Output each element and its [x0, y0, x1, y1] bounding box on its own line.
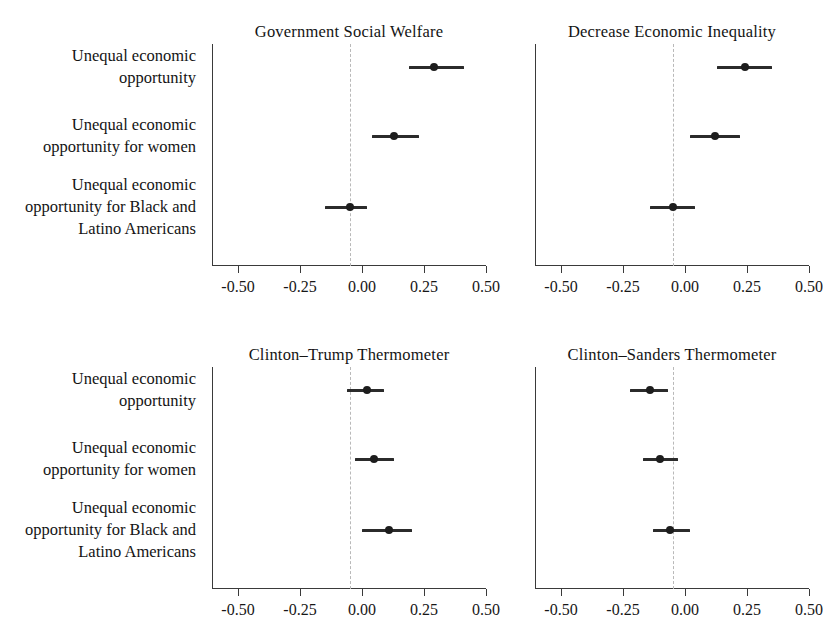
plot-area-3: -0.50-0.250.000.250.50 — [212, 367, 486, 589]
zero-reference-line — [673, 367, 674, 589]
x-tick-3 — [424, 266, 425, 273]
x-tick-label-3: 0.25 — [733, 278, 761, 296]
row-label-2: Unequal economic opportunity for women — [0, 437, 196, 481]
x-tick-label-0: -0.50 — [544, 601, 577, 619]
point-estimate-1 — [363, 386, 371, 394]
point-estimate-2 — [390, 132, 398, 140]
x-tick-2 — [685, 266, 686, 273]
x-tick-label-2: 0.00 — [348, 278, 376, 296]
x-tick-3 — [424, 589, 425, 596]
x-tick-3 — [747, 266, 748, 273]
panel-title-2: Decrease Economic Inequality — [535, 22, 809, 42]
plot-area-4: -0.50-0.250.000.250.50 — [535, 367, 809, 589]
row-label-3: Unequal economic opportunity for Black a… — [0, 498, 196, 563]
zero-reference-line — [350, 367, 351, 589]
x-tick-4 — [486, 266, 487, 273]
y-axis-line — [212, 367, 213, 589]
x-tick-label-3: 0.25 — [410, 278, 438, 296]
zero-reference-line — [350, 44, 351, 266]
x-tick-4 — [809, 266, 810, 273]
point-estimate-3 — [666, 526, 674, 534]
x-tick-0 — [238, 589, 239, 596]
x-tick-label-4: 0.50 — [472, 278, 500, 296]
x-tick-1 — [623, 266, 624, 273]
zero-reference-line — [673, 44, 674, 266]
row-label-3: Unequal economic opportunity for Black a… — [0, 175, 196, 240]
x-tick-0 — [561, 589, 562, 596]
x-tick-3 — [747, 589, 748, 596]
panel-title-4: Clinton–Sanders Thermometer — [535, 345, 809, 365]
x-tick-label-1: -0.25 — [283, 278, 316, 296]
x-tick-2 — [362, 266, 363, 273]
y-axis-line — [535, 367, 536, 589]
y-axis-line — [535, 44, 536, 266]
point-estimate-1 — [430, 63, 438, 71]
panel-1: Government Social Welfare-0.50-0.250.000… — [212, 22, 486, 266]
y-axis-line — [212, 44, 213, 266]
x-tick-1 — [300, 266, 301, 273]
x-tick-label-1: -0.25 — [606, 278, 639, 296]
point-estimate-2 — [370, 455, 378, 463]
point-estimate-2 — [656, 455, 664, 463]
panel-3: Clinton–Trump Thermometer-0.50-0.250.000… — [212, 345, 486, 589]
row-label-1: Unequal economic opportunity — [0, 369, 196, 413]
point-estimate-3 — [669, 203, 677, 211]
x-tick-0 — [561, 266, 562, 273]
x-tick-label-0: -0.50 — [221, 278, 254, 296]
x-tick-1 — [300, 589, 301, 596]
panel-title-1: Government Social Welfare — [212, 22, 486, 42]
plot-area-1: -0.50-0.250.000.250.50 — [212, 44, 486, 266]
x-tick-label-2: 0.00 — [348, 601, 376, 619]
x-tick-label-1: -0.25 — [606, 601, 639, 619]
x-tick-2 — [362, 589, 363, 596]
x-tick-label-4: 0.50 — [795, 601, 823, 619]
x-tick-label-0: -0.50 — [544, 278, 577, 296]
x-tick-2 — [685, 589, 686, 596]
x-tick-4 — [486, 589, 487, 596]
x-tick-label-4: 0.50 — [472, 601, 500, 619]
point-estimate-2 — [711, 132, 719, 140]
x-tick-1 — [623, 589, 624, 596]
panel-2: Decrease Economic Inequality-0.50-0.250.… — [535, 22, 809, 266]
row-label-group: Unequal economic opportunityUnequal econ… — [0, 367, 196, 589]
x-tick-label-3: 0.25 — [733, 601, 761, 619]
x-tick-label-2: 0.00 — [671, 601, 699, 619]
point-estimate-3 — [346, 203, 354, 211]
row-label-1: Unequal economic opportunity — [0, 46, 196, 90]
x-tick-label-1: -0.25 — [283, 601, 316, 619]
point-estimate-3 — [385, 526, 393, 534]
plot-area-2: -0.50-0.250.000.250.50 — [535, 44, 809, 266]
x-tick-0 — [238, 266, 239, 273]
row-label-group: Unequal economic opportunityUnequal econ… — [0, 44, 196, 266]
x-tick-4 — [809, 589, 810, 596]
x-tick-label-2: 0.00 — [671, 278, 699, 296]
x-tick-label-0: -0.50 — [221, 601, 254, 619]
x-tick-label-4: 0.50 — [795, 278, 823, 296]
point-estimate-1 — [741, 63, 749, 71]
panel-title-3: Clinton–Trump Thermometer — [212, 345, 486, 365]
row-label-2: Unequal economic opportunity for women — [0, 114, 196, 158]
panel-4: Clinton–Sanders Thermometer-0.50-0.250.0… — [535, 345, 809, 589]
point-estimate-1 — [646, 386, 654, 394]
x-tick-label-3: 0.25 — [410, 601, 438, 619]
